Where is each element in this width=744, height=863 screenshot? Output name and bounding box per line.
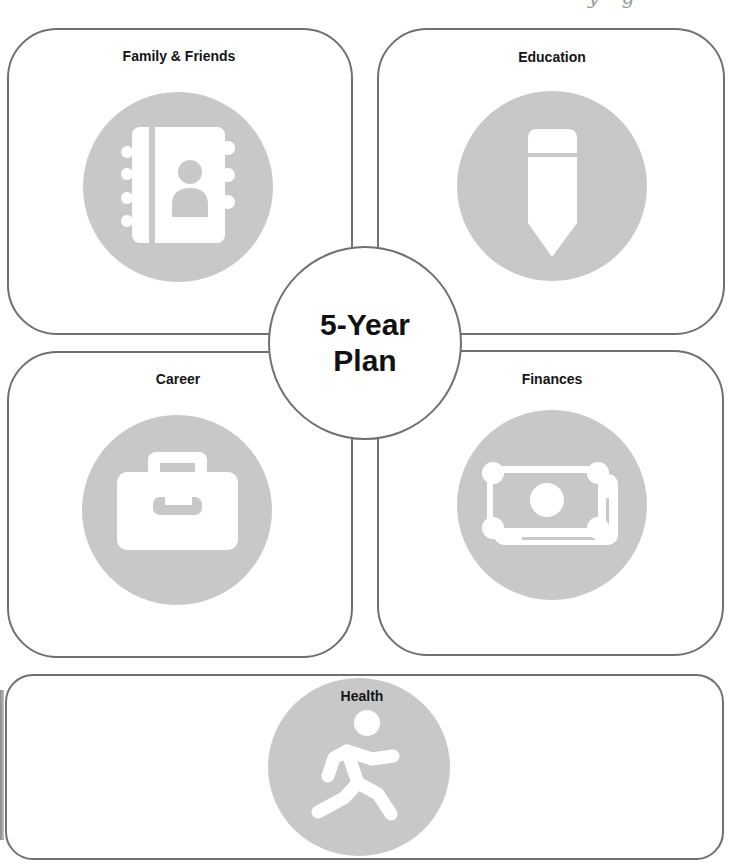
label-career: Career [156, 371, 200, 387]
label-education: Education [518, 49, 586, 65]
label-health: Health [341, 688, 384, 704]
label-family-friends: Family & Friends [123, 48, 236, 64]
clipped-header-text: y g [588, 0, 642, 9]
scan-edge-artifact [0, 690, 4, 840]
center-title-line1: 5-Year [320, 307, 410, 343]
center-title-line2: Plan [333, 343, 396, 379]
center-hub: 5-Year Plan [268, 246, 462, 440]
label-finances: Finances [522, 371, 583, 387]
